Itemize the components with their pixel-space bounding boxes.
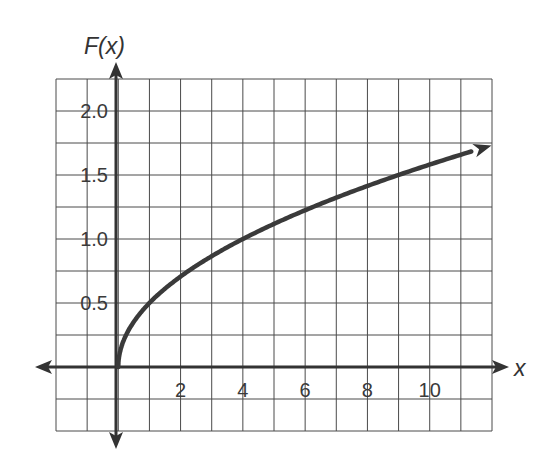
function-graph: 246810 0.51.01.52.0 F(x) x [0,0,557,476]
x-axis-label: x [513,355,527,381]
y-tick-label: 2.0 [80,100,108,122]
x-tick-label: 8 [362,379,373,401]
y-axis-label: F(x) [84,33,125,59]
y-axis [109,62,123,449]
y-tick-label: 0.5 [80,292,108,314]
x-tick-label: 6 [300,379,311,401]
curve-end-arrow-icon [472,144,491,157]
x-tick-label: 10 [419,379,441,401]
x-tick-label: 4 [237,379,248,401]
y-tick-label: 1.5 [80,164,108,186]
x-axis [35,360,509,374]
x-tick-labels: 246810 [175,379,441,401]
x-tick-label: 2 [175,379,186,401]
y-tick-label: 1.0 [80,228,108,250]
